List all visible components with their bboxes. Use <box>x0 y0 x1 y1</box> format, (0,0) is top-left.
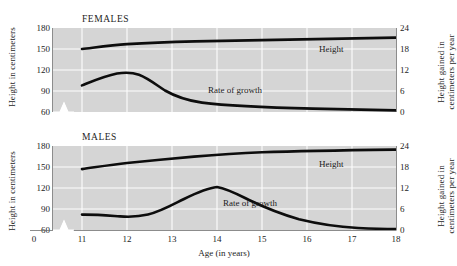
x-tick-11: 11 <box>78 234 87 244</box>
x-tick-13: 13 <box>168 234 177 244</box>
x-tick-0: 0 <box>32 234 37 244</box>
x-tick-14: 14 <box>213 234 222 244</box>
panel-females: FEMALES 180 150 120 90 60 24 18 12 6 0 <box>0 0 457 122</box>
x-tick-18: 18 <box>392 234 401 244</box>
growth-chart-figure: Height in centimeters Height in centimet… <box>0 0 457 266</box>
x-tick-15: 15 <box>258 234 267 244</box>
axis-decoration-females <box>0 0 457 122</box>
axis-decoration-males <box>0 124 457 266</box>
x-tick-12: 12 <box>123 234 132 244</box>
x-tick-17: 17 <box>348 234 357 244</box>
x-axis-title: Age (in years) <box>198 248 249 258</box>
panel-males: MALES 180 150 120 90 60 24 18 12 6 0 <box>0 124 457 266</box>
x-tick-16: 16 <box>303 234 312 244</box>
